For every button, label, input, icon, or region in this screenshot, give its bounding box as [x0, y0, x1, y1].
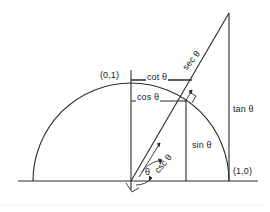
trig-unit-circle-figure: (0,1) cot θ cos θ sec θ csc θ sin θ tan …: [0, 0, 270, 212]
label-theta: θ: [145, 167, 150, 177]
label-sin: sin θ: [192, 140, 212, 150]
label-cos: cos θ: [136, 92, 160, 102]
right-angle-tick-origin: [126, 183, 139, 192]
label-point-1-0: (1,0): [233, 166, 252, 176]
figure-canvas: [0, 0, 270, 212]
label-tan: tan θ: [233, 104, 254, 114]
label-point-0-1: (0,1): [100, 70, 119, 80]
label-cot: cot θ: [146, 72, 168, 82]
